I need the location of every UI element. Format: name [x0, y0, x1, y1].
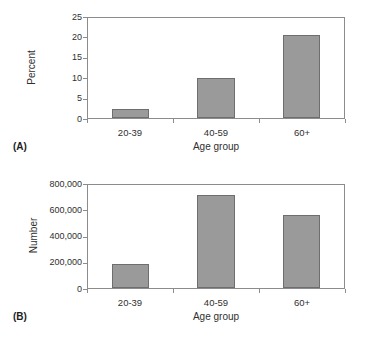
bar	[283, 35, 321, 118]
panel-label-a: (A)	[13, 141, 27, 152]
panel-b: Number 800,000600,000400,000200,0000 20-…	[0, 168, 367, 341]
x-tick-mark	[87, 119, 88, 123]
x-tick-label: 40-59	[173, 127, 259, 138]
y-tick-label: 0	[77, 285, 82, 294]
bar-cell	[259, 18, 344, 118]
bar	[283, 215, 321, 288]
x-tick-mark	[87, 289, 88, 293]
x-axis-title-b: Age group	[87, 311, 345, 322]
x-tickmarks-a	[87, 119, 345, 124]
bar-cell	[88, 18, 173, 118]
x-tick-mark	[259, 289, 260, 293]
bar	[197, 195, 235, 288]
x-axis-labels-b: 20-3940-5960+	[87, 297, 345, 308]
bar	[197, 78, 235, 118]
x-tickmarks-b	[87, 289, 345, 294]
bar-series-b	[88, 185, 344, 288]
y-tick-label: 0	[77, 115, 82, 124]
y-axis-ticks-b: 800,000600,000400,000200,0000	[20, 184, 82, 289]
y-tick-label: 200,000	[49, 258, 82, 267]
x-tick-mark	[259, 119, 260, 123]
x-axis-title-a: Age group	[87, 141, 345, 152]
x-tick-label: 60+	[259, 297, 345, 308]
bar-cell	[173, 18, 258, 118]
x-tick-mark	[173, 119, 174, 123]
plot-area-a	[87, 17, 345, 119]
x-axis-labels-a: 20-3940-5960+	[87, 127, 345, 138]
y-tick-label: 25	[72, 13, 82, 22]
y-tick-label: 20	[72, 33, 82, 42]
y-tick-label: 5	[77, 94, 82, 103]
y-tick-label: 400,000	[49, 232, 82, 241]
y-axis-ticks-a: 2520151050	[20, 17, 82, 119]
bar-series-a	[88, 18, 344, 118]
y-tick-label: 800,000	[49, 180, 82, 189]
x-tick-label: 40-59	[173, 297, 259, 308]
y-tick-label: 10	[72, 74, 82, 83]
x-tick-mark	[345, 289, 346, 293]
x-tick-label: 20-39	[87, 127, 173, 138]
x-tick-label: 20-39	[87, 297, 173, 308]
y-tick-label: 600,000	[49, 206, 82, 215]
panel-a: Percent 2520151050 20-3940-5960+ Age gro…	[0, 0, 367, 170]
y-tick-label: 15	[72, 53, 82, 62]
x-tick-label: 60+	[259, 127, 345, 138]
x-tick-mark	[173, 289, 174, 293]
plot-area-b	[87, 184, 345, 289]
bar	[112, 109, 150, 118]
panel-label-b: (B)	[13, 311, 27, 322]
bar-cell	[88, 185, 173, 288]
x-tick-mark	[345, 119, 346, 123]
bar-cell	[173, 185, 258, 288]
bar-cell	[259, 185, 344, 288]
bar	[112, 264, 150, 288]
